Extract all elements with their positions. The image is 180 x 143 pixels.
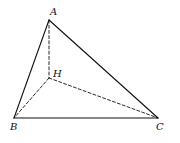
vertex-label-c: C <box>156 121 164 132</box>
edge-ab <box>14 20 49 118</box>
edge-hb <box>14 78 49 118</box>
vertex-label-a: A <box>49 6 57 17</box>
vertex-label-h: H <box>52 68 62 79</box>
tetrahedron-diagram: A H B C <box>0 0 180 143</box>
vertex-label-b: B <box>9 121 17 132</box>
edges-group <box>14 20 158 118</box>
edge-hc <box>49 78 158 118</box>
edge-ac <box>49 20 158 118</box>
labels-group: A H B C <box>9 6 164 132</box>
